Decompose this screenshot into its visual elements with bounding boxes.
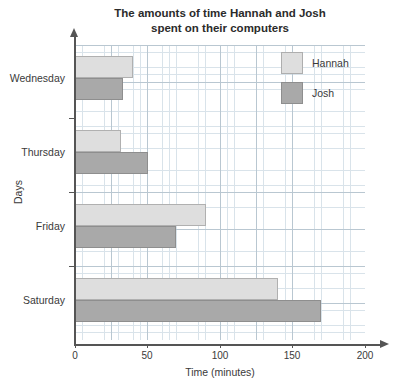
legend-entry-hannah: Hannah <box>281 52 349 74</box>
y-axis-arrow <box>70 28 78 37</box>
legend-swatch-josh <box>281 82 303 104</box>
x-tick-label-200: 200 <box>357 350 374 361</box>
chart-title: The amounts of time Hannah and Josh spen… <box>60 6 380 36</box>
bar-saturday-hannah <box>75 278 278 300</box>
x-tick-150 <box>292 344 293 348</box>
legend-label-josh: Josh <box>312 87 334 99</box>
legend-entry-josh: Josh <box>281 82 334 104</box>
x-tick-200 <box>365 344 366 348</box>
x-tick-label-50: 50 <box>141 350 152 361</box>
y-category-label-wednesday: Wednesday <box>10 72 65 84</box>
bar-wednesday-hannah <box>75 56 133 78</box>
x-axis-title: Time (minutes) <box>75 366 365 378</box>
y-axis-line <box>74 36 76 345</box>
bar-wednesday-josh <box>75 78 123 100</box>
y-tick-1 <box>69 118 75 119</box>
x-tick-100 <box>220 344 221 348</box>
legend-label-hannah: Hannah <box>312 57 349 69</box>
y-tick-3 <box>69 266 75 267</box>
chart-title-line-2: spent on their computers <box>60 21 380 36</box>
y-category-label-friday: Friday <box>36 220 65 232</box>
x-tick-label-150: 150 <box>284 350 301 361</box>
bar-thursday-hannah <box>75 130 121 152</box>
y-category-label-saturday: Saturday <box>23 294 65 306</box>
x-tick-label-0: 0 <box>72 350 78 361</box>
plot-area: Hannah Josh <box>75 45 365 340</box>
x-tick-0 <box>75 344 76 348</box>
bar-chart: The amounts of time Hannah and Josh spen… <box>0 0 397 385</box>
legend-swatch-hannah <box>281 52 303 74</box>
bar-saturday-josh <box>75 300 321 322</box>
bar-friday-josh <box>75 226 176 248</box>
x-axis-line <box>74 344 382 346</box>
bar-friday-hannah <box>75 204 206 226</box>
y-tick-2 <box>69 192 75 193</box>
x-axis-arrow <box>380 340 389 348</box>
y-axis-title: Days <box>12 162 24 222</box>
chart-title-line-1: The amounts of time Hannah and Josh <box>60 6 380 21</box>
x-tick-50 <box>147 344 148 348</box>
y-category-label-thursday: Thursday <box>21 146 65 158</box>
x-tick-label-100: 100 <box>212 350 229 361</box>
bar-thursday-josh <box>75 152 148 174</box>
